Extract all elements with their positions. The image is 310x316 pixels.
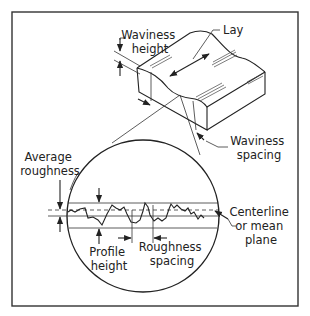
waviness-spacing-leader [206,141,228,147]
waviness-spacing-arrow-right [197,133,204,140]
label-waviness-spacing: Waviness spacing [230,134,288,162]
projection-line-left [112,95,180,143]
reference-lines [48,203,218,228]
lay-arrow [170,54,209,76]
surface-profile [68,203,204,225]
lay-leader [193,30,220,59]
label-waviness-height: Waviness height [121,28,179,56]
surface-texture-diagram: Waviness height Lay Waviness spacing Ave… [0,0,310,316]
label-average-roughness: Average roughness [20,150,80,178]
label-profile-height: Profile height [89,245,128,273]
label-centerline: Centerline or mean plane [229,205,292,247]
waviness-spacing-arrow-left [138,99,150,105]
label-roughness-spacing: Roughness spacing [139,240,205,268]
label-lay: Lay [223,23,243,37]
